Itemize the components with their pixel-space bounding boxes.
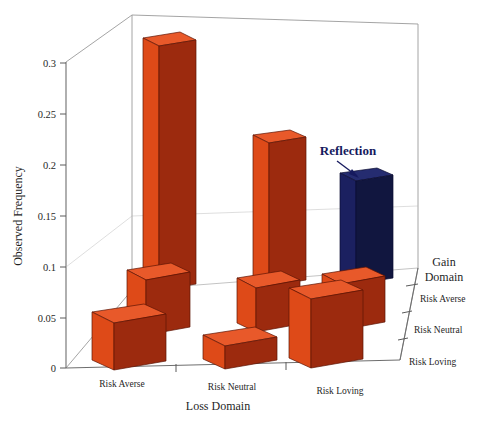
bar-chart-3d: 0.3 0.25 0.2 0.15 0.1 0.05 0 Observed Fr…	[0, 0, 486, 433]
bar-loss-loving-gain-averse-reflection[interactable]	[340, 168, 393, 284]
bar-loss-averse-gain-averse[interactable]	[143, 32, 196, 290]
x-category-label-risk-averse: Risk Averse	[99, 379, 144, 389]
y-tick-label-0.25: 0.25	[38, 109, 56, 120]
z-category-label-risk-averse: Risk Averse	[420, 294, 465, 304]
bar-loss-loving-gain-loving[interactable]	[289, 280, 363, 368]
z-axis-title-line1: Gain	[432, 255, 455, 269]
x-category-label-risk-loving: Risk Loving	[316, 386, 363, 396]
z-axis-line	[400, 268, 418, 360]
frame-diagonal-top	[66, 15, 132, 62]
z-tick-1	[406, 284, 418, 286]
z-category-label-risk-neutral: Risk Neutral	[414, 325, 463, 335]
x-category-label-risk-neutral: Risk Neutral	[208, 382, 257, 392]
bar-loss-averse-gain-loving[interactable]	[92, 304, 166, 370]
z-axis-title-line2: Domain	[425, 270, 464, 284]
y-tick-label-0.2: 0.2	[43, 160, 56, 171]
z-tick-3	[398, 338, 408, 340]
y-tick-label-0.15: 0.15	[38, 211, 56, 222]
reflection-annotation-label: Reflection	[320, 143, 377, 158]
y-tick-label-0.1: 0.1	[43, 262, 56, 273]
z-tick-2	[402, 311, 412, 313]
x-axis-title: Loss Domain	[186, 399, 250, 413]
y-axis: 0.3 0.25 0.2 0.15 0.1 0.05 0 Observed Fr…	[11, 58, 66, 374]
frame-top-edge	[132, 15, 418, 24]
y-tick-label-0.05: 0.05	[38, 313, 56, 324]
z-category-label-risk-loving: Risk Loving	[409, 357, 456, 367]
chart-container: 0.3 0.25 0.2 0.15 0.1 0.05 0 Observed Fr…	[0, 0, 486, 433]
y-tick-label-0: 0	[51, 363, 56, 374]
bar-loss-neutral-gain-averse[interactable]	[253, 130, 306, 286]
y-axis-title: Observed Frequency	[11, 166, 25, 266]
z-axis: Gain Domain Risk Averse Risk Neutral Ris…	[398, 255, 465, 367]
y-tick-label-0.3: 0.3	[43, 58, 56, 69]
